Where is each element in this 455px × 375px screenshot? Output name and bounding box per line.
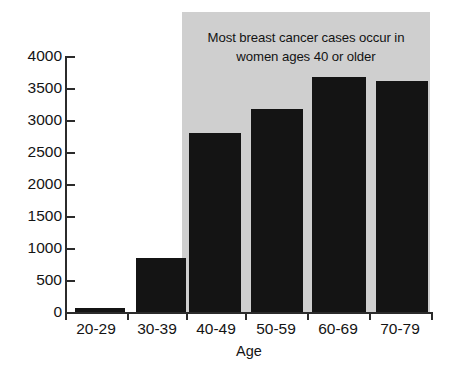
y-tick-label-4000: 4000	[4, 48, 62, 64]
y-tick-label-1000: 1000	[4, 240, 62, 256]
y-tick-2500	[67, 152, 75, 154]
y-tick-label-2000: 2000	[4, 176, 62, 192]
bar-70-79	[376, 81, 428, 312]
bar-chart: Most breast cancer cases occur in women …	[0, 0, 455, 375]
bar-50-59	[251, 109, 303, 312]
x-axis-line	[65, 312, 433, 314]
y-tick-label-0: 0	[4, 304, 62, 320]
y-tick-1500	[67, 216, 75, 218]
y-tick-4000	[67, 56, 75, 58]
y-tick-3500	[67, 88, 75, 90]
x-tick-label-60-69: 60-69	[308, 320, 368, 337]
y-tick-label-2500: 2500	[4, 144, 62, 160]
y-tick-2000	[67, 184, 75, 186]
x-tick-label-50-59: 50-59	[246, 320, 306, 337]
x-tick-label-40-49: 40-49	[186, 320, 246, 337]
y-tick-label-1500: 1500	[4, 208, 62, 224]
y-tick-3000	[67, 120, 75, 122]
bar-30-39	[136, 258, 186, 312]
y-tick-1000	[67, 248, 75, 250]
y-tick-label-3500: 3500	[4, 80, 62, 96]
bar-60-69	[312, 77, 366, 312]
chart-annotation-line-2: women ages 40 or older	[186, 47, 426, 66]
x-tick-6	[431, 314, 433, 320]
bar-40-49	[189, 133, 241, 312]
x-axis-title: Age	[65, 343, 433, 359]
x-tick-label-20-29: 20-29	[66, 320, 126, 337]
x-tick-label-70-79: 70-79	[370, 320, 430, 337]
chart-annotation: Most breast cancer cases occur in women …	[186, 28, 426, 66]
figure-caption-fragment	[88, 366, 348, 373]
y-tick-label-500: 500	[4, 272, 62, 288]
x-tick-label-30-39: 30-39	[127, 320, 187, 337]
chart-annotation-line-1: Most breast cancer cases occur in	[186, 28, 426, 47]
y-tick-500	[67, 280, 75, 282]
y-tick-label-3000: 3000	[4, 112, 62, 128]
